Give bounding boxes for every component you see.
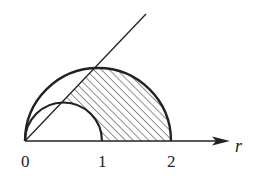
tick-label-2: 2 — [167, 152, 176, 171]
axis-label-r: r — [235, 136, 243, 156]
tick-label-0: 0 — [21, 152, 30, 171]
shaded-region — [25, 68, 171, 141]
tick-label-1: 1 — [98, 152, 107, 171]
polar-region-diagram: r 0 1 2 — [0, 0, 254, 196]
